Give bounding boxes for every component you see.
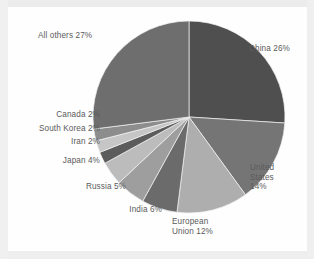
- pie-label-japan: Japan 4%: [36, 156, 100, 166]
- pie-label-canada: Canada 2%: [20, 110, 100, 120]
- pie-label-russia: Russia 5%: [62, 182, 126, 192]
- pie-label-south-korea: South Korea 2%: [12, 124, 100, 134]
- pie-label-european-union: European Union 12%: [172, 217, 238, 236]
- pie-label-india: India 6%: [104, 205, 162, 215]
- pie-label-china: China 26%: [249, 44, 311, 54]
- pie-chart: All others 27% China 26% United States 1…: [0, 0, 314, 259]
- pie-slice-china[interactable]: [189, 21, 285, 123]
- pie-label-united-states: United States 14%: [250, 163, 306, 192]
- pie-label-all-others: All others 27%: [38, 31, 124, 41]
- chart-page: All others 27% China 26% United States 1…: [0, 0, 314, 259]
- pie-label-iran: Iran 2%: [26, 137, 100, 147]
